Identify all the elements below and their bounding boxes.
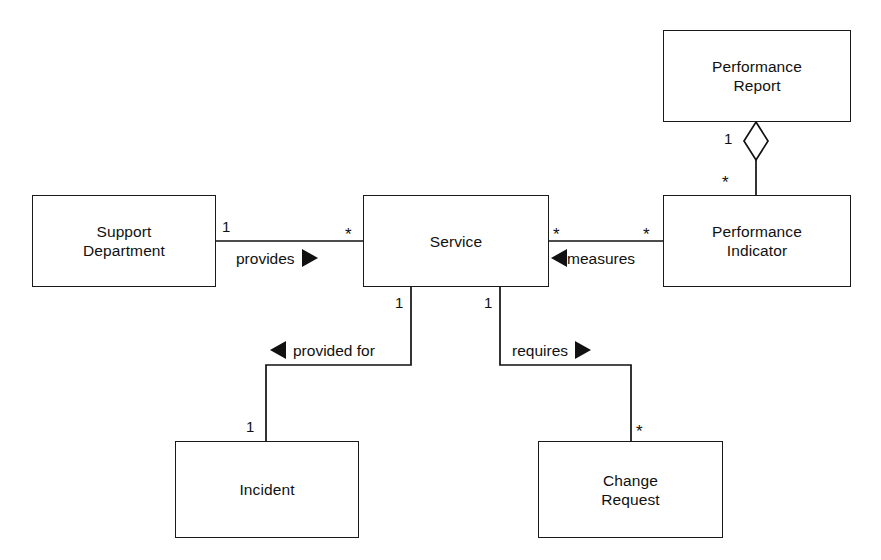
class-name-incident: Incident — [235, 480, 298, 499]
triangle-right-icon — [575, 341, 591, 359]
association-label-measures-text: measures — [567, 250, 635, 267]
multiplicity-measures-indicator-side: * — [643, 230, 650, 240]
triangle-right-icon — [302, 249, 318, 267]
association-label-provided-for: provided for — [270, 341, 375, 359]
association-label-provides: provides — [236, 249, 318, 267]
multiplicity-aggregation-report-side: 1 — [724, 131, 732, 146]
class-box-change-request[interactable]: Change Request — [538, 441, 723, 538]
association-label-requires-text: requires — [512, 342, 568, 359]
uml-class-diagram: Performance Report Support Department Se… — [0, 0, 881, 560]
association-label-provides-text: provides — [236, 250, 295, 267]
class-box-incident[interactable]: Incident — [175, 441, 359, 538]
association-label-provided-for-text: provided for — [293, 342, 375, 359]
class-name-change-request: Change Request — [597, 471, 663, 509]
multiplicity-requires-change-side: * — [636, 427, 643, 437]
class-name-support-department: Support Department — [79, 222, 169, 260]
multiplicity-requires-service-side: 1 — [484, 295, 492, 310]
association-line-provided-for — [266, 287, 411, 441]
class-box-performance-report[interactable]: Performance Report — [663, 30, 851, 122]
class-box-performance-indicator[interactable]: Performance Indicator — [663, 195, 851, 287]
class-box-support-department[interactable]: Support Department — [32, 195, 216, 287]
triangle-left-icon — [551, 249, 567, 267]
class-name-performance-indicator: Performance Indicator — [708, 222, 806, 260]
multiplicity-provides-source: 1 — [222, 219, 230, 234]
multiplicity-measures-service-side: * — [553, 230, 560, 240]
multiplicity-provides-target: * — [345, 230, 352, 240]
association-label-measures: measures — [551, 249, 635, 267]
class-box-service[interactable]: Service — [363, 195, 549, 287]
class-name-performance-report: Performance Report — [708, 57, 806, 95]
aggregation-diamond-icon — [744, 122, 768, 160]
class-name-service: Service — [426, 232, 486, 251]
multiplicity-provided-for-service-side: 1 — [395, 295, 403, 310]
association-label-requires: requires — [512, 341, 591, 359]
multiplicity-provided-for-incident-side: 1 — [246, 419, 254, 434]
triangle-left-icon — [270, 341, 286, 359]
association-line-requires — [500, 287, 631, 441]
multiplicity-aggregation-indicator-side: * — [722, 178, 729, 188]
